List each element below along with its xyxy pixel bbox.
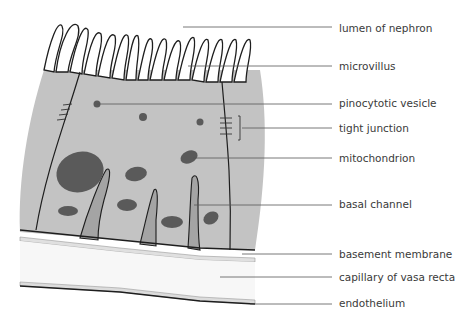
label-capillary: capillary of vasa recta (339, 271, 455, 283)
label-microvillus: microvillus (339, 60, 396, 72)
label-endothelium: endothelium (339, 297, 405, 309)
label-pinocytotic-vesicle: pinocytotic vesicle (339, 97, 437, 109)
label-lumen: lumen of nephron (339, 22, 432, 34)
label-tight-junction: tight junction (339, 122, 409, 134)
label-basement-membrane: basement membrane (339, 248, 452, 260)
label-mitochondrion: mitochondrion (339, 152, 415, 164)
label-basal-channel: basal channel (339, 198, 412, 210)
